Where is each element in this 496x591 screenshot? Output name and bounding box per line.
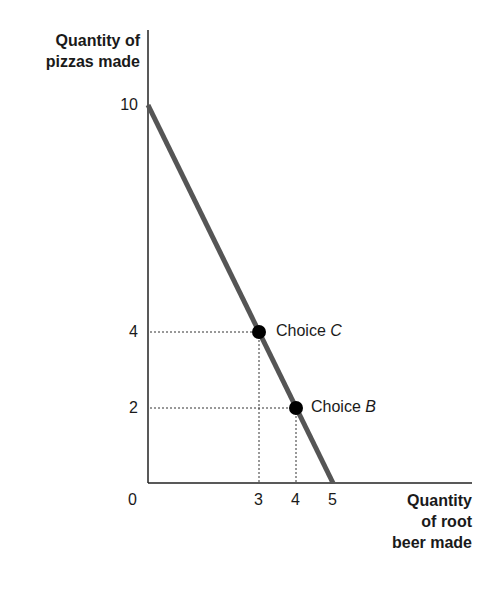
y-axis-label: Quantity of pizzas made (46, 30, 140, 72)
point-choice-b (289, 401, 303, 415)
y-tick-10: 10 (120, 96, 138, 114)
label-choice-b: Choice B (311, 398, 376, 416)
x-tick-4: 4 (291, 491, 300, 509)
ppf-line (148, 105, 333, 483)
x-axis-label: Quantity of root beer made (392, 490, 472, 553)
point-choice-c (252, 325, 266, 339)
x-tick-3: 3 (254, 491, 263, 509)
y-tick-2: 2 (129, 399, 138, 417)
x-tick-0: 0 (128, 491, 137, 509)
label-choice-c: Choice C (276, 322, 342, 340)
y-tick-4: 4 (129, 323, 138, 341)
x-tick-5: 5 (328, 491, 337, 509)
